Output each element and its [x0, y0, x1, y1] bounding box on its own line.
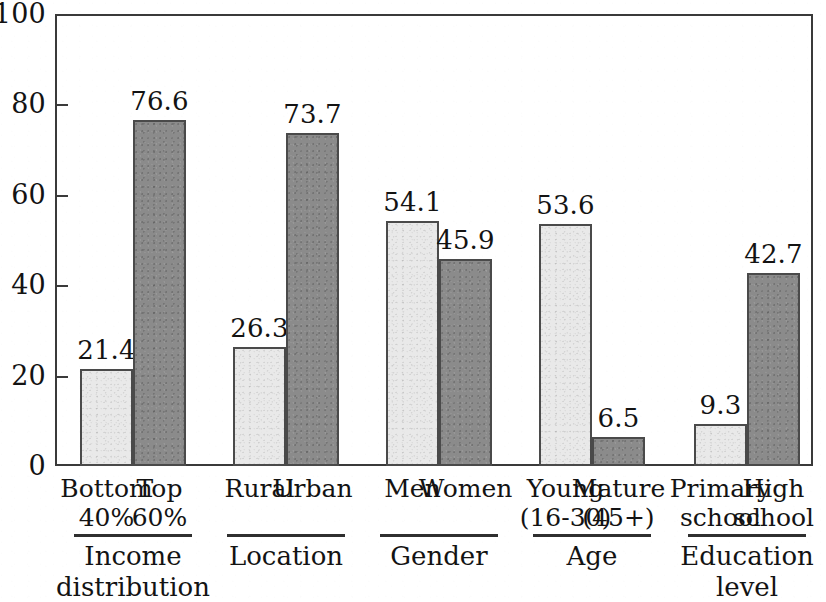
bar	[439, 259, 492, 466]
bar	[80, 369, 133, 466]
group-underline	[380, 534, 498, 537]
category-label-line1: Top	[137, 474, 183, 503]
group-underline	[74, 534, 192, 537]
y-axis-tick-mark	[57, 104, 68, 106]
category-label-line1: High	[743, 474, 805, 503]
category-label-line1: Urban	[272, 474, 352, 503]
y-axis-tick-mark	[57, 376, 68, 378]
bar-value-label: 42.7	[729, 241, 819, 267]
bar	[747, 273, 800, 466]
bar-value-label: 54.1	[368, 189, 458, 215]
category-label-line2: school	[714, 503, 826, 532]
bar-chart: 020406080100 21.4Bottom40%76.6Top60%Inco…	[0, 0, 826, 602]
y-axis-tick-mark	[57, 285, 68, 287]
category-label-line1: Mature	[572, 474, 665, 503]
group-underline	[688, 534, 806, 537]
group-label-line1: Location	[229, 541, 343, 571]
bar-value-label: 45.9	[421, 227, 511, 253]
group-label-line2: distribution	[33, 572, 233, 602]
bar	[286, 133, 339, 466]
x-axis-category-label: Highschool	[714, 474, 826, 532]
bar	[694, 424, 747, 466]
bars-layer: 21.4Bottom40%76.6Top60%Incomedistributio…	[0, 0, 826, 602]
group-label-line1: Income	[84, 541, 181, 571]
bar	[233, 347, 286, 466]
category-label-line1: Women	[419, 474, 513, 503]
bar-value-label: 6.5	[574, 405, 664, 431]
bar-value-label: 53.6	[521, 192, 611, 218]
category-label-line2: 60%	[100, 503, 220, 532]
group-label-line1: Education	[680, 541, 814, 571]
group-underline	[533, 534, 651, 537]
group-label: Educationlevel	[647, 541, 826, 602]
bar	[133, 120, 186, 466]
group-label-line1: Gender	[390, 541, 487, 571]
group-label-line1: Age	[567, 541, 618, 571]
group-label-line2: level	[647, 572, 826, 602]
y-axis-tick-mark	[57, 195, 68, 197]
bar	[592, 437, 645, 466]
bar-value-label: 73.7	[268, 101, 358, 127]
bar	[386, 221, 439, 466]
group-underline	[227, 534, 345, 537]
bar-value-label: 76.6	[115, 88, 205, 114]
